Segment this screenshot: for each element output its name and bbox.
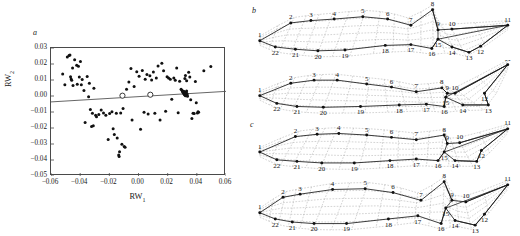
y-axis-tick-labels: 0.030.020.010.00−0.01−0.02−0.03−0.04−0.0…: [8, 47, 47, 175]
x-tick-label: 0.04: [190, 178, 203, 186]
landmark-label: 3: [309, 11, 313, 19]
landmark-point: [431, 8, 434, 11]
scatter-point: [104, 114, 107, 117]
landmark-point: [299, 193, 302, 196]
landmark-label: 9: [436, 20, 440, 28]
deformation-grid-svg: 12345678910111213141516171819202122: [252, 174, 519, 233]
landmark-label: 6: [390, 128, 394, 136]
landmark-point: [337, 132, 340, 135]
landmark-point: [506, 127, 509, 130]
landmark-point: [282, 196, 285, 199]
landmark-label: 8: [442, 126, 446, 134]
scatter-point: [145, 73, 148, 76]
y-axis-label: RW2: [4, 71, 15, 87]
landmark-label: 10: [448, 20, 455, 28]
landmark-label: 20: [311, 225, 318, 233]
y-tick-label: 0.00: [34, 91, 47, 99]
warped-grid: [260, 177, 508, 230]
scatter-point: [170, 98, 173, 101]
landmark-point: [258, 39, 261, 42]
landmark-point: [294, 135, 297, 138]
scatter-point: [188, 76, 191, 79]
landmark-label: 21: [293, 163, 300, 171]
scatter-point: [68, 54, 71, 57]
landmark-label: 22: [272, 49, 279, 57]
landmark-label: 9: [446, 84, 450, 92]
scatter-point: [139, 128, 142, 131]
scatter-point: [153, 112, 156, 115]
landmark-label: 18: [386, 162, 393, 170]
landmark-label: 2: [289, 74, 293, 82]
landmark-label: 2: [294, 127, 298, 135]
landmark-point: [446, 92, 449, 95]
y-tick-label: −0.03: [30, 139, 47, 147]
landmark-label: 3: [315, 125, 319, 133]
body-outline: [260, 65, 508, 108]
x-axis-tick-labels: −0.06−0.04−0.020.000.020.040.06: [50, 178, 225, 190]
landmark-label: 22: [272, 221, 279, 229]
landmark-point: [316, 133, 319, 136]
figure-root: a 0.030.020.010.00−0.01−0.02−0.03−0.04−0…: [0, 0, 520, 236]
scatter-point: [91, 112, 94, 115]
y-tick-label: 0.02: [34, 59, 47, 67]
landmark-label: 21: [292, 51, 299, 59]
body-outline: [260, 10, 508, 53]
landmark-point: [443, 180, 446, 183]
landmark-point: [313, 79, 316, 82]
scatter-point: [61, 73, 64, 76]
landmark-label: 1: [258, 143, 262, 151]
consensus-marker: [120, 93, 125, 98]
regression-line: [51, 91, 226, 102]
scatter-point: [70, 79, 73, 82]
scatter-point: [209, 65, 212, 68]
scatter-point: [184, 74, 187, 77]
landmark-point: [386, 18, 389, 21]
scatter-point: [63, 83, 66, 86]
scatter-point: [115, 112, 118, 115]
landmark-label: 1: [258, 86, 262, 94]
landmark-label: 2: [289, 13, 293, 21]
x-tick-label: 0.02: [160, 178, 173, 186]
landmark-label: 11: [504, 175, 511, 183]
landmark-point: [464, 200, 467, 203]
landmark-label: 3: [312, 71, 316, 79]
landmark-label: 12: [478, 152, 485, 160]
landmark-label: 17: [414, 218, 421, 226]
scatter-point: [159, 119, 162, 122]
landmark-label: 11: [504, 60, 511, 63]
landmark-label: 15: [435, 41, 442, 49]
scatter-point: [141, 69, 144, 72]
outline-chord: [455, 65, 508, 94]
landmark-label: 10: [456, 133, 463, 141]
scatter-point: [88, 82, 91, 85]
scatter-point: [183, 77, 186, 80]
scatter-point: [84, 121, 87, 124]
landmark-label: 19: [357, 108, 364, 116]
scatter-point: [82, 89, 85, 92]
landmark-label: 22: [273, 105, 280, 113]
landmark-label: 3: [298, 185, 302, 193]
landmark-point: [309, 19, 312, 22]
landmark-point: [390, 86, 393, 89]
x-tick-label: −0.02: [100, 178, 117, 186]
scatter-point: [155, 76, 158, 79]
scatter-point: [118, 150, 121, 153]
landmark-label: 7: [415, 130, 419, 138]
scatter-point: [72, 84, 75, 87]
landmark-point: [419, 199, 422, 202]
landmark-point: [437, 28, 440, 31]
landmark-label: 10: [452, 84, 459, 92]
landmark-point: [258, 211, 261, 214]
scatter-point: [135, 70, 138, 73]
landmark-label: 16: [428, 50, 435, 58]
scatter-point: [187, 71, 190, 74]
scatter-point: [119, 111, 122, 114]
scatter-panel: a 0.030.020.010.00−0.01−0.02−0.03−0.04−0…: [0, 0, 252, 236]
scatter-point: [164, 110, 167, 113]
landmark-label: 5: [363, 179, 367, 187]
y-tick-label: −0.02: [30, 123, 47, 131]
scatter-point: [95, 115, 98, 118]
x-tick-label: 0.00: [131, 178, 144, 186]
landmark-label: 9: [450, 191, 454, 199]
scatter-point: [131, 119, 134, 122]
